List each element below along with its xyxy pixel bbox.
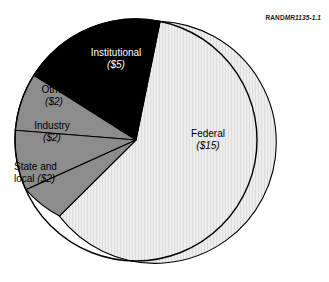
pie-chart-canvas: Institutional ($5) Other ($2) Industry (… xyxy=(0,0,329,282)
pie-chart-figure: RANDMR1135-1.1 Institutiona xyxy=(0,0,329,282)
pie-chart-svg xyxy=(0,0,329,282)
